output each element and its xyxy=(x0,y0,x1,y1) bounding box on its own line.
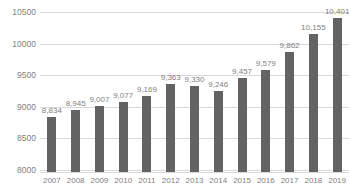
y-axis-tick-label: 8000 xyxy=(17,165,36,175)
bar-chart: 10500100009500900085008000 2007200820092… xyxy=(0,0,350,191)
bar[interactable] xyxy=(142,96,151,172)
bar-value-label: 9,246 xyxy=(203,80,233,89)
bar[interactable] xyxy=(95,106,104,172)
bar-value-label: 9,579 xyxy=(251,59,281,68)
x-axis-tick-label: 2019 xyxy=(322,176,350,185)
y-axis-tick-label: 10500 xyxy=(12,7,36,17)
bar[interactable] xyxy=(166,84,175,172)
bar[interactable] xyxy=(238,78,247,172)
y-axis-tick-label: 9000 xyxy=(17,102,36,112)
bar[interactable] xyxy=(47,117,56,172)
bar-value-label: 9,169 xyxy=(132,85,162,94)
bar[interactable] xyxy=(119,102,128,172)
bar[interactable] xyxy=(71,110,80,172)
y-axis-tick-label: 9500 xyxy=(17,70,36,80)
bar-value-label: 10,155 xyxy=(298,23,328,32)
bar[interactable] xyxy=(261,70,270,172)
y-axis-tick-label: 8500 xyxy=(17,133,36,143)
bar[interactable] xyxy=(214,91,223,172)
y-axis-tick-label: 10000 xyxy=(12,39,36,49)
bar[interactable] xyxy=(285,52,294,172)
bar[interactable] xyxy=(190,86,199,172)
bar-value-label: 10,401 xyxy=(322,7,350,16)
bar[interactable] xyxy=(309,34,318,172)
bar[interactable] xyxy=(333,18,342,172)
bar-value-label: 9,862 xyxy=(275,41,305,50)
bar-value-label: 9,457 xyxy=(227,67,257,76)
